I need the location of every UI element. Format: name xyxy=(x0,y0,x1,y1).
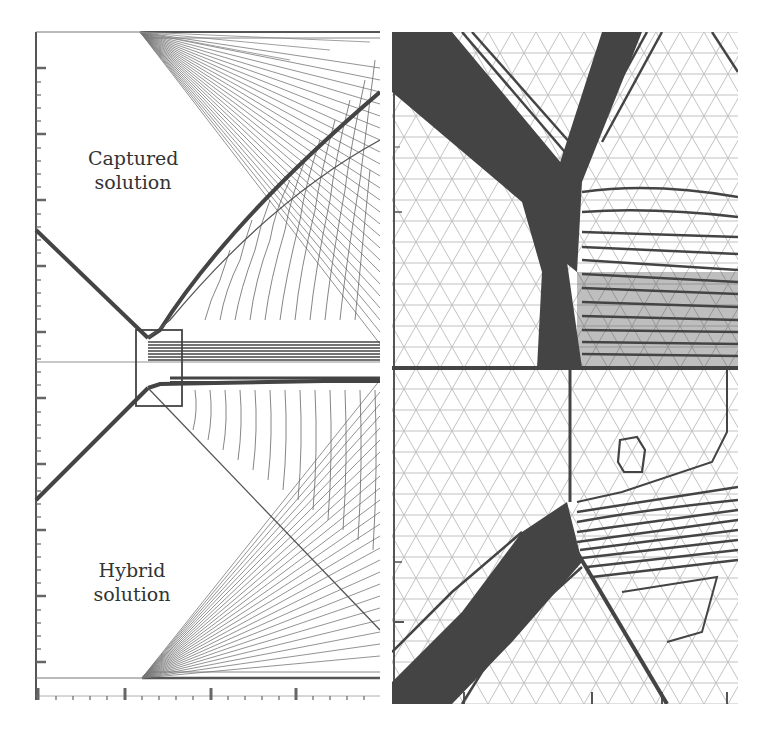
lower-contours xyxy=(193,390,376,550)
captured-label-line1: Captured xyxy=(88,146,178,170)
right-zoomed-mesh-plot xyxy=(392,32,738,704)
left-contour-plot: Captured solution Hybrid solution xyxy=(30,20,380,710)
lower-reflected-shock xyxy=(148,388,380,630)
right-plot-svg xyxy=(392,32,738,704)
x-axis-ticks xyxy=(36,688,380,700)
captured-solution-label: Captured solution xyxy=(88,146,178,194)
hybrid-solution-label: Hybrid solution xyxy=(92,558,172,606)
captured-label-line2: solution xyxy=(88,170,178,194)
hybrid-label-line1: Hybrid xyxy=(92,558,172,582)
lower-expansion-fan xyxy=(142,380,380,678)
left-plot-svg xyxy=(30,20,380,710)
y-axis-ticks xyxy=(36,68,46,662)
hybrid-label-line2: solution xyxy=(92,582,172,606)
